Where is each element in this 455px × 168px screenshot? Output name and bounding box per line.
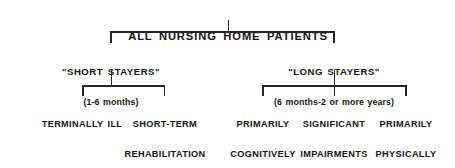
connector-drop-primarily-cognitively-impaired [262,85,264,96]
leaf-line: IMPAIRMENTS [300,150,368,160]
connector-drop-terminally-ill [82,85,84,96]
leaf-line: SHORT-TERM [115,120,214,130]
leaf-line: PRIMARILY [376,120,437,130]
tree-diagram: ALL NURSING HOME PATIENTS "SHORT STAYERS… [0,0,455,168]
connector-drop-short-term-rehab [164,85,166,96]
connector-drop-long-stayers [333,31,335,43]
leaf-node-primarily-cognitively-impaired: PRIMARILY COGNITIVELY IMPAIRED [230,100,295,168]
leaf-line: COGNITIVELY [230,150,295,160]
connector-drop-significant-impairments [334,85,336,96]
connector-short-stayers-bracket [82,85,165,87]
leaf-node-primarily-physically-impaired: PRIMARILY PHYSICALLY IMPAIRED [376,100,437,168]
connector-drop-short-stayers [110,31,112,43]
leaf-line: PHYSICALLY [376,150,437,160]
leaf-line: SIGNIFICANT [300,120,368,130]
leaf-line: TERMINALLY ILL [42,120,123,130]
connector-drop-primarily-physically-impaired [405,85,407,96]
leaf-node-short-term-rehabilitation: SHORT-TERM REHABILITATION &/or SUBACUTE … [115,100,214,168]
leaf-node-terminally-ill: TERMINALLY ILL [42,100,123,150]
leaf-node-significant-impairments-of-both: SIGNIFICANT IMPAIRMENTS OF BOTH COGNITIV… [300,100,368,168]
leaf-line: REHABILITATION [115,150,214,160]
connector-long-stayers-stem [334,70,336,86]
connector-root-bracket [110,31,335,33]
leaf-line: PRIMARILY [230,120,295,130]
connector-short-stayers-stem [111,70,113,86]
